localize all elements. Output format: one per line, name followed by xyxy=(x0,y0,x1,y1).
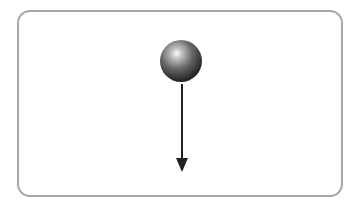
ball-sphere xyxy=(160,40,202,82)
down-arrow-icon xyxy=(172,84,192,174)
